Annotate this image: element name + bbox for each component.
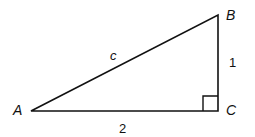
vertex-label-c: C xyxy=(226,102,237,118)
side-label-horizontal-leg: 2 xyxy=(119,121,126,136)
triangle-diagram: A B C c 1 2 xyxy=(0,0,255,137)
side-label-hypotenuse: c xyxy=(110,48,117,63)
side-label-vertical-leg: 1 xyxy=(229,55,236,70)
right-angle-marker xyxy=(203,96,218,111)
triangle-abc xyxy=(31,15,218,111)
vertex-label-a: A xyxy=(12,102,22,118)
vertex-label-b: B xyxy=(226,7,235,23)
